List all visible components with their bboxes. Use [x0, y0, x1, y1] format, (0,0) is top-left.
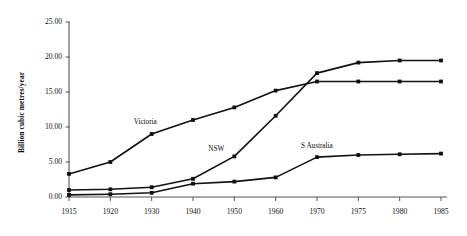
line-chart-plot: [0, 0, 467, 236]
data-point-marker: [108, 160, 112, 164]
data-point-marker: [108, 187, 112, 191]
data-point-marker: [191, 177, 195, 181]
series-line-nsw: [69, 61, 441, 191]
x-tick-label: 1920: [90, 207, 130, 216]
y-tick-label: 25.00: [20, 17, 62, 26]
data-point-marker: [398, 80, 402, 84]
data-point-marker: [191, 182, 195, 186]
data-point-marker: [315, 155, 319, 159]
data-point-marker: [150, 185, 154, 189]
chart-container: Billion cubic metres/year 0.005.0010.001…: [0, 0, 467, 236]
y-tick-label: 0.00: [20, 192, 62, 201]
x-tick-label: 1940: [173, 207, 213, 216]
series-label-victoria: Victoria: [134, 118, 157, 126]
data-point-marker: [232, 106, 236, 110]
data-point-marker: [315, 80, 319, 84]
data-point-marker: [232, 180, 236, 184]
series-label-s-australia: S Australia: [301, 142, 333, 150]
y-tick-label: 15.00: [20, 87, 62, 96]
data-point-marker: [274, 114, 278, 118]
data-point-marker: [274, 89, 278, 93]
data-point-marker: [439, 152, 443, 156]
data-point-marker: [150, 132, 154, 136]
x-tick-label: 1930: [132, 207, 172, 216]
data-point-marker: [232, 155, 236, 159]
data-point-marker: [67, 193, 71, 197]
y-tick-label: 5.00: [20, 157, 62, 166]
data-point-marker: [108, 192, 112, 196]
data-point-marker: [191, 118, 195, 122]
x-tick-label: 1960: [256, 207, 296, 216]
data-point-marker: [150, 191, 154, 195]
series-line-victoria: [69, 82, 441, 174]
data-point-marker: [356, 153, 360, 157]
x-tick-label: 1950: [214, 207, 254, 216]
data-point-marker: [398, 59, 402, 63]
y-tick-label: 10.00: [20, 122, 62, 131]
data-point-marker: [439, 80, 443, 84]
data-point-marker: [356, 61, 360, 65]
x-tick-label: 1980: [380, 207, 420, 216]
data-point-marker: [356, 80, 360, 84]
x-tick-label: 1985: [421, 207, 461, 216]
data-point-marker: [67, 188, 71, 192]
data-point-marker: [274, 176, 278, 180]
x-tick-label: 1970: [297, 207, 337, 216]
data-point-marker: [439, 59, 443, 63]
data-point-marker: [398, 152, 402, 156]
y-tick-label: 20.00: [20, 52, 62, 61]
series-label-nsw: NSW: [208, 145, 224, 153]
data-point-marker: [315, 71, 319, 75]
x-tick-label: 1915: [49, 207, 89, 216]
x-tick-label: 1975: [338, 207, 378, 216]
data-point-marker: [67, 172, 71, 176]
